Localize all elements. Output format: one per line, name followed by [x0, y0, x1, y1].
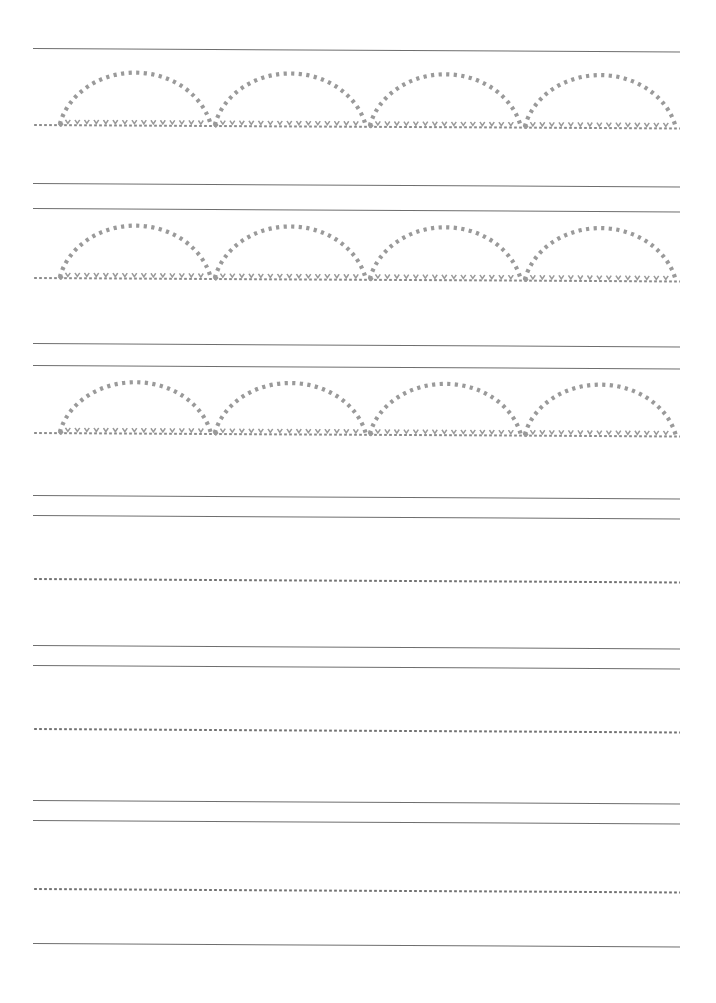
worksheet-row-7-top-solid-line — [33, 943, 680, 947]
worksheet-row-3-arch-band — [33, 367, 680, 435]
worksheet-row-4-top-solid-line — [33, 495, 680, 499]
trace-arch-shape — [58, 57, 213, 125]
baseline-tick-marks — [527, 275, 674, 282]
worksheet-row-2-top-solid-line — [33, 183, 680, 187]
worksheet-row-6-second-solid-line — [33, 820, 680, 824]
trace-arch-shape — [58, 210, 213, 278]
worksheet-row-5-top-solid-line — [33, 645, 680, 649]
baseline-tick-marks — [62, 119, 209, 126]
trace-arch-shape — [523, 213, 678, 281]
baseline-tick-marks — [372, 121, 519, 128]
worksheet-row-1-arch-band — [33, 57, 680, 127]
worksheet-row-4-dotted-baseline — [33, 578, 680, 583]
trace-arch-shape — [523, 60, 678, 128]
trace-arch-shape — [58, 367, 213, 433]
baseline-tick-marks — [527, 122, 674, 129]
worksheet-row-6-top-solid-line — [33, 800, 680, 804]
baseline-tick-marks — [527, 430, 674, 437]
worksheet-row-1-top-solid-line — [33, 48, 680, 52]
trace-arch-shape — [523, 370, 678, 436]
worksheet-row-4-second-solid-line — [33, 515, 680, 519]
baseline-tick-marks — [62, 427, 209, 434]
baseline-tick-marks — [372, 429, 519, 436]
trace-arch-shape — [213, 368, 368, 434]
trace-arch-shape — [368, 212, 523, 280]
ruling-layer — [0, 0, 716, 1003]
baseline-tick-marks — [62, 272, 209, 279]
baseline-tick-marks — [217, 120, 364, 127]
trace-arch-shape — [368, 369, 523, 435]
baseline-tick-marks — [217, 273, 364, 280]
baseline-tick-marks — [217, 428, 364, 435]
trace-arch-shape — [213, 211, 368, 279]
worksheet-row-5-second-solid-line — [33, 665, 680, 669]
trace-arch-shape — [368, 59, 523, 127]
worksheet-row-3-top-solid-line — [33, 343, 680, 347]
trace-arch-shape — [213, 58, 368, 126]
worksheet-row-6-dotted-baseline — [33, 888, 680, 893]
handwriting-worksheet-page — [0, 0, 716, 1003]
worksheet-row-5-dotted-baseline — [33, 728, 680, 733]
worksheet-row-2-arch-band — [33, 210, 680, 280]
baseline-tick-marks — [372, 274, 519, 281]
